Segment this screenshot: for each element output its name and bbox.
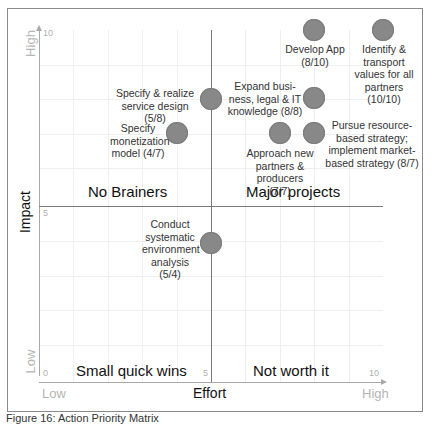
label-develop-app: Develop App (8/10) xyxy=(280,43,350,68)
point-identify-transport xyxy=(372,19,394,41)
x-axis-high-label: High xyxy=(362,386,389,401)
label-monetization: Specify monetization model (4/7) xyxy=(110,122,166,160)
y-tick-10: 10 xyxy=(43,28,53,38)
x-axis-arrow-icon xyxy=(381,379,387,385)
label-identify-transport: Identify & transport values for all part… xyxy=(350,43,418,106)
quadrant-no-brainers: No Brainers xyxy=(88,183,167,200)
x-tick-5: 5 xyxy=(203,368,208,378)
y-tick-5: 5 xyxy=(43,208,48,218)
label-expand-knowledge: Expand busi- ness, legal & IT knowledge … xyxy=(226,80,304,118)
label-service-design: Specify & realize service design (5/8) xyxy=(110,87,200,125)
label-pursue-strategy: Pursue resource- based strategy; impleme… xyxy=(322,119,422,169)
point-approach-partners xyxy=(269,122,291,144)
point-expand-knowledge xyxy=(303,87,325,109)
x-tick-10: 10 xyxy=(369,368,379,378)
point-develop-app xyxy=(303,19,325,41)
label-environment-analysis: Conduct systematic environment analysis … xyxy=(142,218,198,281)
label-approach-partners: Approach new partners & producers (7/7) xyxy=(246,147,314,197)
quadrant-not-worth-it: Not worth it xyxy=(253,362,329,379)
point-service-design xyxy=(200,88,222,110)
y-tick-0: 0 xyxy=(43,368,48,378)
y-axis-low-label: Low xyxy=(23,346,38,378)
x-axis-title: Effort xyxy=(193,385,226,401)
x-axis-line xyxy=(39,382,383,383)
point-environment-analysis xyxy=(200,232,222,254)
quadrant-small-quick-wins: Small quick wins xyxy=(76,362,187,379)
figure-caption: Figure 16: Action Priority Matrix xyxy=(6,412,159,424)
y-axis-high-label: High xyxy=(23,26,38,62)
x-axis-low-label: Low xyxy=(42,386,66,401)
y-axis-title: Impact xyxy=(17,187,33,237)
y-axis-line xyxy=(39,28,40,376)
horizontal-divider xyxy=(39,206,383,207)
